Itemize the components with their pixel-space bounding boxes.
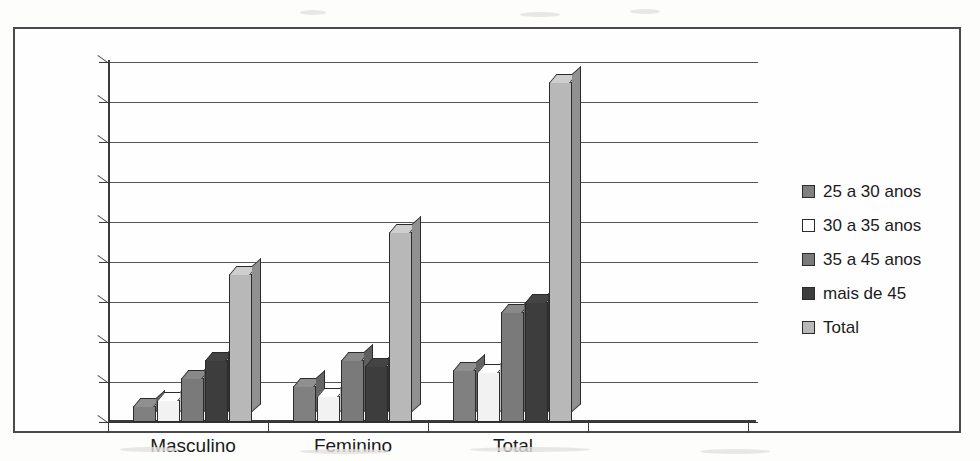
gridline-450 (108, 62, 758, 63)
bar-masculino-35-a-45-anos (181, 378, 204, 422)
chart-legend: 25 a 30 anos30 a 35 anos35 a 45 anosmais… (802, 174, 962, 344)
legend-swatch-icon (802, 185, 815, 198)
bar-feminino-30-a-35-anos (317, 396, 340, 422)
y-tick-200 (99, 262, 108, 263)
gridline-200 (108, 262, 758, 263)
gridline-250 (108, 222, 758, 223)
legend-item-label: 35 a 45 anos (823, 251, 921, 268)
legend-swatch-icon (802, 287, 815, 300)
bar-total-30-a-35-anos (477, 372, 500, 422)
bar-side-face (572, 66, 581, 412)
legend-swatch-icon (802, 321, 815, 334)
legend-item-0[interactable]: 25 a 30 anos (802, 174, 962, 208)
y-tick-450 (99, 62, 108, 63)
x-axis-labels: MasculinoFemininoTotal (108, 422, 758, 461)
y-tick-300 (99, 182, 108, 183)
bar-masculino-25-a-30-anos (133, 406, 156, 422)
scan-speckle (700, 449, 770, 454)
scan-speckle (470, 447, 590, 452)
chart-frame: 450 400 350 300 250 200 150 100 50 0 Mas… (13, 27, 961, 433)
gridline-150 (108, 302, 758, 303)
y-tick-0 (99, 422, 108, 423)
legend-item-label: Total (823, 319, 859, 336)
plot-area (108, 62, 753, 422)
bar-feminino-35-a-45-anos (341, 360, 364, 422)
y-tick-350 (99, 142, 108, 143)
bar-total-total (549, 82, 572, 422)
bar-side-face (412, 216, 421, 412)
bar-total-mais-de-45 (525, 302, 548, 422)
bar-feminino-total (389, 232, 412, 422)
y-tick-250 (99, 222, 108, 223)
scan-speckle (630, 9, 660, 14)
gridline-350 (108, 142, 758, 143)
gridline-400 (108, 102, 758, 103)
bar-feminino-mais-de-45 (365, 366, 388, 422)
y-tick-50 (99, 382, 108, 383)
legend-item-1[interactable]: 30 a 35 anos (802, 208, 962, 242)
bar-total-25-a-30-anos (453, 370, 476, 422)
legend-item-label: mais de 45 (823, 285, 906, 302)
bar-feminino-25-a-30-anos (293, 386, 316, 422)
y-axis-line (108, 60, 110, 422)
y-tick-400 (99, 102, 108, 103)
scan-speckle (120, 447, 180, 452)
legend-item-label: 30 a 35 anos (823, 217, 921, 234)
legend-item-2[interactable]: 35 a 45 anos (802, 242, 962, 276)
y-tick-100 (99, 342, 108, 343)
bar-total-35-a-45-anos (501, 312, 524, 422)
legend-swatch-icon (802, 253, 815, 266)
scan-speckle (520, 12, 560, 17)
legend-item-label: 25 a 30 anos (823, 183, 921, 200)
gridline-100 (108, 342, 758, 343)
bar-side-face (252, 258, 261, 412)
bar-masculino-30-a-35-anos (157, 400, 180, 422)
scan-speckle (300, 10, 326, 15)
bar-masculino-mais-de-45 (205, 360, 228, 422)
x-axis-label-masculino: Masculino (150, 436, 236, 455)
x-axis-label-total: Total (493, 436, 533, 455)
legend-swatch-icon (802, 219, 815, 232)
scan-speckle (300, 449, 390, 454)
gridline-300 (108, 182, 758, 183)
legend-item-4[interactable]: Total (802, 310, 962, 344)
y-tick-150 (99, 302, 108, 303)
chart-page: 450 400 350 300 250 200 150 100 50 0 Mas… (0, 0, 980, 461)
bar-masculino-total (229, 274, 252, 422)
legend-item-3[interactable]: mais de 45 (802, 276, 962, 310)
